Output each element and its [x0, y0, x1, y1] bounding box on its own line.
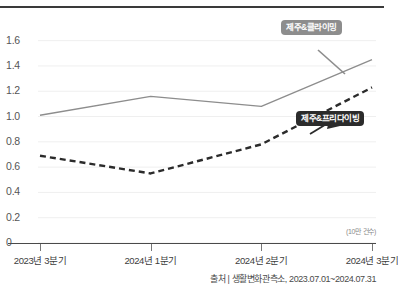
x-tick-label: 2023년 3분기: [14, 253, 66, 267]
x-tick-mark: [151, 244, 152, 251]
line-chart-svg: [0, 12, 384, 248]
x-axis-labels: 2023년 3분기2024년 1분기2024년 2분기2024년 3분기: [0, 253, 384, 269]
y-tick-label: 0.4: [6, 186, 36, 197]
series-line-0: [40, 60, 372, 116]
y-tick-label: 1.6: [6, 35, 36, 46]
source-text: 출처 | 생활변화관측소, 2023.07.01~2024.07.31: [210, 272, 376, 285]
y-tick-label: 0.6: [6, 161, 36, 172]
y-tick-label: 1.4: [6, 60, 36, 71]
x-axis-tick-marks: [0, 244, 384, 252]
x-tick-label: 2024년 3분기: [346, 253, 398, 267]
unit-note: (10만 건수): [346, 226, 376, 236]
x-tick-mark: [372, 244, 373, 251]
y-tick-label: 1.0: [6, 111, 36, 122]
top-divider: [0, 6, 384, 8]
x-tick-mark: [40, 244, 41, 251]
x-tick-label: 2024년 2분기: [235, 253, 287, 267]
callout-climbing: 제주&클라이밍: [281, 20, 342, 35]
callout-freediving: 제주&프리다이빙: [296, 111, 364, 126]
series-line-1: [40, 87, 372, 173]
y-tick-label: 0.2: [6, 212, 36, 223]
leader-line-climbing: [318, 50, 345, 74]
x-tick-label: 2024년 1분기: [124, 253, 176, 267]
x-tick-mark: [261, 244, 262, 251]
gridlines: [38, 41, 376, 243]
y-tick-label: 0.8: [6, 136, 36, 147]
y-tick-label: 1.2: [6, 85, 36, 96]
plot-area: 1.61.41.21.00.80.60.40.20: [0, 12, 384, 248]
